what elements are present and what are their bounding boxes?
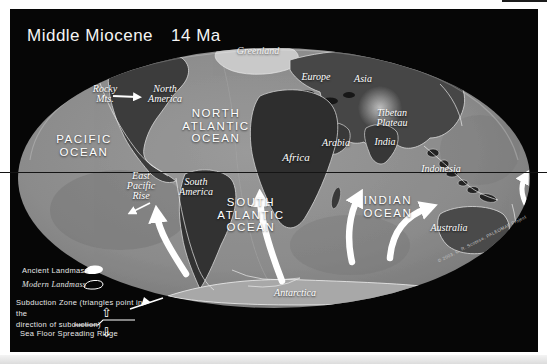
label-tibetan-plateau: Tibetan Plateau xyxy=(376,108,407,128)
label-antarctica: Antarctica xyxy=(274,288,316,298)
paleogeographic-map-middle-miocene: Middle Miocene14 Ma PACIFIC OCEAN NORTH … xyxy=(0,0,547,364)
label-east-pacific-rise: East Pacific Rise xyxy=(127,171,155,201)
down-arrow-icon: ⇩ xyxy=(101,326,112,339)
label-pacific-ocean: PACIFIC OCEAN xyxy=(56,133,112,158)
label-north-america: North America xyxy=(148,84,182,104)
label-south-atlantic-ocean: SOUTH ATLANTIC OCEAN xyxy=(217,196,285,234)
legend-modern-landmass: Modern Landmass xyxy=(22,280,86,289)
label-indonesia: Indonesia xyxy=(421,164,460,174)
label-europe: Europe xyxy=(301,72,330,82)
label-australia: Australia xyxy=(430,223,467,233)
label-india: India xyxy=(374,137,395,147)
label-north-atlantic-ocean: NORTH ATLANTIC OCEAN xyxy=(182,107,250,145)
label-africa: Africa xyxy=(282,152,310,162)
map-title: Middle Miocene14 Ma xyxy=(27,26,221,46)
label-south-america: South America xyxy=(179,177,213,197)
up-arrow-icon: ⇧ xyxy=(101,306,112,319)
legend-ancient-landmass: Ancient Landmass xyxy=(22,266,89,275)
title-era: Middle Miocene xyxy=(27,26,153,45)
bottom-margin xyxy=(0,355,547,364)
label-arabia: Arabia xyxy=(322,138,350,148)
label-asia: Asia xyxy=(354,74,372,84)
label-greenland: Greenland xyxy=(237,46,279,56)
label-rocky-mts: Rocky Mts. xyxy=(93,84,117,104)
top-edge-mark xyxy=(502,0,547,2)
label-indian-ocean: INDIAN OCEAN xyxy=(364,194,413,219)
title-age: 14 Ma xyxy=(171,26,221,45)
legend-subduction-zone: Subduction Zone (triangles point in the … xyxy=(16,297,146,330)
